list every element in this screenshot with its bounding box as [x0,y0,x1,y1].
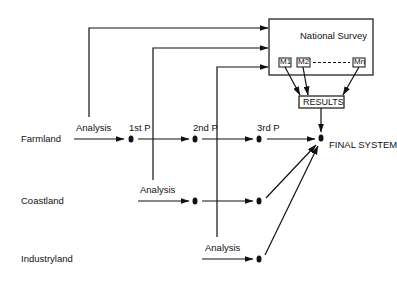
analysis-industryland: Analysis [205,243,240,253]
phase-3: 3rd P [257,123,280,133]
node-coastland-1 [193,198,198,205]
phase-2: 2nd P [193,123,218,133]
feedback-line-3 [217,67,268,237]
feedback-line-2 [153,48,268,180]
region-industryland: Industryland [21,254,73,264]
final-system-label: FINAL SYSTEM [329,140,397,150]
module-m1: M1 [280,58,291,66]
results-label: RESULTS [303,98,344,107]
phase-1: 1st P [129,123,151,133]
analysis-farmland: Analysis [76,123,111,133]
feedback-line-1 [89,28,268,117]
node-farmland-3 [257,136,262,143]
module-m2: M2 [298,58,309,66]
node-farmland-2 [193,136,198,143]
node-coastland-2 [257,198,262,205]
node-final [319,135,324,142]
node-industryland-1 [257,256,262,263]
module-mn: Mn [354,58,365,66]
analysis-coastland: Analysis [140,185,175,195]
node-farmland-1 [129,136,134,143]
region-coastland: Coastland [21,196,64,206]
survey-title: National Survey [300,31,367,41]
region-farmland: Farmland [21,134,61,144]
